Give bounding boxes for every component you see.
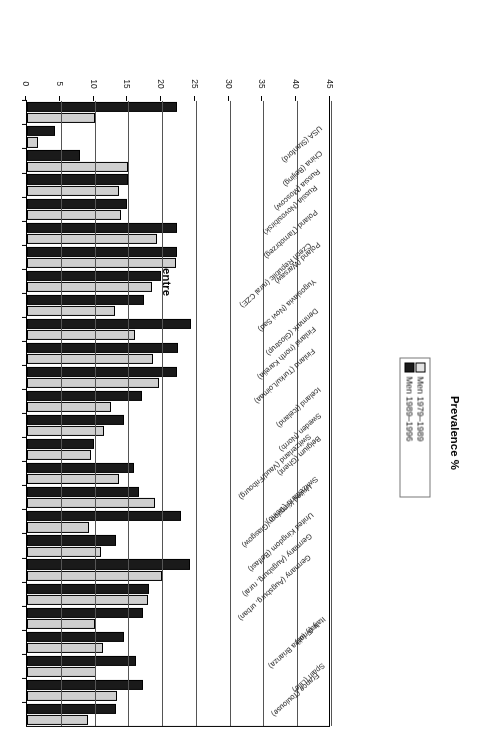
value-tick-0 bbox=[25, 96, 26, 101]
gridline-5 bbox=[61, 101, 62, 726]
category-tick bbox=[22, 678, 27, 679]
bar-men-1979-1989 bbox=[27, 498, 155, 508]
value-tick-label-20: 20 bbox=[156, 72, 166, 96]
category-tick bbox=[22, 534, 27, 535]
value-tick-label-45: 45 bbox=[325, 72, 335, 96]
bar-men-1979-1989 bbox=[27, 162, 128, 172]
bar-men-1989-1996 bbox=[27, 295, 144, 305]
category-tick bbox=[22, 293, 27, 294]
category-tick bbox=[22, 630, 27, 631]
category-tick bbox=[22, 702, 27, 703]
bar-men-1979-1989 bbox=[27, 547, 101, 557]
bar-men-1979-1989 bbox=[27, 354, 153, 364]
bar-men-1989-1996 bbox=[27, 247, 177, 257]
category-tick bbox=[22, 124, 27, 125]
bar-men-1979-1989 bbox=[27, 426, 104, 436]
value-tick-label-0: 0 bbox=[21, 72, 31, 96]
category-tick bbox=[22, 389, 27, 390]
bar-men-1989-1996 bbox=[27, 367, 177, 377]
bar-men-1989-1996 bbox=[27, 175, 128, 185]
gridline-45 bbox=[331, 101, 332, 726]
bar-men-1979-1989 bbox=[27, 378, 159, 388]
legend-item-0: Men 1979–1989 bbox=[416, 363, 426, 493]
category-tick bbox=[22, 317, 27, 318]
bar-men-1989-1996 bbox=[27, 223, 177, 233]
value-tick-label-25: 25 bbox=[190, 72, 200, 96]
category-tick bbox=[22, 341, 27, 342]
bar-men-1989-1996 bbox=[27, 511, 181, 521]
value-tick-label-5: 5 bbox=[55, 72, 65, 96]
category-tick bbox=[22, 509, 27, 510]
legend-label-1989-1996: Men 1989–1996 bbox=[405, 377, 415, 442]
value-tick-20 bbox=[160, 96, 161, 101]
category-tick bbox=[22, 606, 27, 607]
bar-men-1989-1996 bbox=[27, 560, 190, 570]
bar-men-1979-1989 bbox=[27, 258, 176, 268]
bar-men-1979-1989 bbox=[27, 691, 117, 701]
category-tick bbox=[22, 413, 27, 414]
bar-men-1989-1996 bbox=[27, 319, 191, 329]
gridline-35 bbox=[263, 101, 264, 726]
bar-men-1989-1996 bbox=[27, 704, 116, 714]
value-tick-40 bbox=[295, 96, 296, 101]
bar-men-1989-1996 bbox=[27, 680, 143, 690]
bar-men-1979-1989 bbox=[27, 595, 148, 605]
category-tick bbox=[22, 485, 27, 486]
bar-men-1979-1989 bbox=[27, 402, 111, 412]
gridline-20 bbox=[162, 101, 163, 726]
bar-men-1979-1989 bbox=[27, 306, 115, 316]
bar-men-1979-1989 bbox=[27, 715, 88, 725]
bar-men-1979-1989 bbox=[27, 330, 135, 340]
category-tick bbox=[22, 245, 27, 246]
category-tick bbox=[22, 582, 27, 583]
bar-men-1979-1989 bbox=[27, 137, 38, 147]
value-tick-label-15: 15 bbox=[122, 72, 132, 96]
category-tick bbox=[22, 654, 27, 655]
value-tick-5 bbox=[59, 96, 60, 101]
category-tick bbox=[22, 173, 27, 174]
category-tick bbox=[22, 437, 27, 438]
value-axis-title: Prevalence % bbox=[449, 363, 461, 503]
bar-men-1989-1996 bbox=[27, 535, 116, 545]
gridline-15 bbox=[128, 101, 129, 726]
bar-men-1989-1996 bbox=[27, 632, 124, 642]
bar-men-1989-1996 bbox=[27, 102, 177, 112]
bar-group bbox=[27, 606, 329, 630]
category-tick bbox=[22, 197, 27, 198]
value-tick-15 bbox=[126, 96, 127, 101]
value-tick-45 bbox=[329, 96, 330, 101]
bar-men-1989-1996 bbox=[27, 656, 136, 666]
legend-label-1979-1989: Men 1979–1989 bbox=[416, 377, 426, 442]
gridline-25 bbox=[196, 101, 197, 726]
bar-men-1989-1996 bbox=[27, 584, 149, 594]
value-tick-label-35: 35 bbox=[257, 72, 267, 96]
bar-men-1989-1996 bbox=[27, 487, 139, 497]
bar-group bbox=[27, 124, 329, 148]
chart-figure: Prevalence % Centre 051015202530354045 F… bbox=[0, 0, 485, 739]
value-tick-label-10: 10 bbox=[89, 72, 99, 96]
category-tick bbox=[22, 149, 27, 150]
bar-men-1989-1996 bbox=[27, 415, 124, 425]
category-tick bbox=[22, 365, 27, 366]
bar-men-1989-1996 bbox=[27, 463, 134, 473]
bar-men-1989-1996 bbox=[27, 150, 80, 160]
bar-men-1979-1989 bbox=[27, 234, 157, 244]
value-tick-label-30: 30 bbox=[224, 72, 234, 96]
legend-swatch-icon-1979-1989 bbox=[416, 363, 426, 373]
bar-men-1979-1989 bbox=[27, 474, 119, 484]
category-tick bbox=[22, 269, 27, 270]
bar-men-1979-1989 bbox=[27, 450, 91, 460]
legend-item-1: Men 1989–1996 bbox=[405, 363, 415, 493]
chart-canvas: Prevalence % Centre 051015202530354045 F… bbox=[0, 0, 485, 739]
gridline-30 bbox=[230, 101, 231, 726]
bar-group bbox=[27, 389, 329, 413]
value-tick-35 bbox=[261, 96, 262, 101]
value-tick-10 bbox=[93, 96, 94, 101]
bar-men-1979-1989 bbox=[27, 210, 121, 220]
gridline-10 bbox=[95, 101, 96, 726]
legend-swatch-icon-1989-1996 bbox=[405, 363, 415, 373]
bar-men-1989-1996 bbox=[27, 608, 143, 618]
bar-men-1979-1989 bbox=[27, 282, 152, 292]
bar-men-1979-1989 bbox=[27, 643, 103, 653]
bar-men-1979-1989 bbox=[27, 522, 89, 532]
